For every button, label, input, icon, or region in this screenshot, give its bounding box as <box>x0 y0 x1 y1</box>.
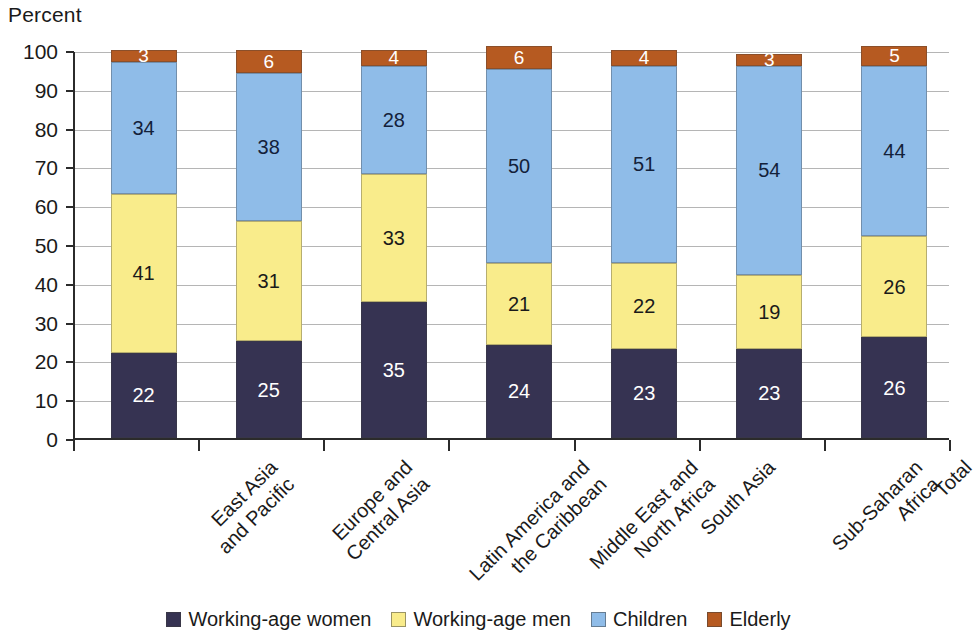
x-axis-category-label: Europe andCentral Asia <box>324 456 434 566</box>
bar-segment-value: 54 <box>758 160 780 180</box>
bar-segment-value: 35 <box>383 360 405 380</box>
legend-label: Working-age men <box>413 608 570 631</box>
bar-segment[interactable]: 24 <box>486 345 552 438</box>
bar-segment[interactable]: 31 <box>236 221 302 341</box>
bar-segment-value: 22 <box>633 296 655 316</box>
legend-item-4[interactable]: Elderly <box>707 608 790 631</box>
bar-segment-value: 21 <box>508 294 530 314</box>
legend-item-3[interactable]: Children <box>591 608 687 631</box>
x-axis-tick-mark <box>949 440 951 451</box>
bar-5[interactable]: 2322514 <box>611 50 677 438</box>
bar-3[interactable]: 3533284 <box>361 50 427 438</box>
bar-segment[interactable]: 6 <box>486 46 552 69</box>
y-axis-title: Percent <box>8 3 82 27</box>
bar-segment[interactable]: 34 <box>111 62 177 194</box>
x-axis-category-label: Sub-SaharanAfrica <box>828 456 945 573</box>
bar-segment[interactable]: 22 <box>111 353 177 438</box>
bar-segment-value: 44 <box>883 141 905 161</box>
legend: Working-age womenWorking-age menChildren… <box>0 608 957 631</box>
x-axis-tick-mark <box>73 440 75 451</box>
legend-label: Children <box>613 608 687 631</box>
legend-swatch <box>166 612 181 627</box>
x-axis-tick-mark <box>448 440 450 451</box>
x-axis-tick-mark <box>699 440 701 451</box>
bar-segment-value: 4 <box>389 48 400 67</box>
bar-segment[interactable]: 54 <box>736 66 802 276</box>
bar-segment-value: 33 <box>383 228 405 248</box>
bar-segment-value: 22 <box>132 385 154 405</box>
legend-swatch <box>391 612 406 627</box>
bar-2[interactable]: 2531386 <box>236 50 302 438</box>
bar-segment-value: 5 <box>889 46 900 65</box>
bar-segment-value: 6 <box>263 52 274 71</box>
x-axis-tick-mark <box>574 440 576 451</box>
bar-segment[interactable]: 51 <box>611 66 677 264</box>
bar-segment-value: 26 <box>883 378 905 398</box>
bar-segment[interactable]: 21 <box>486 263 552 344</box>
plot-area: 2241343253138635332842421506232251423195… <box>73 52 949 440</box>
bar-segment[interactable]: 23 <box>611 349 677 438</box>
bar-segment-value: 51 <box>633 154 655 174</box>
legend-swatch <box>591 612 606 627</box>
bar-segment[interactable]: 4 <box>361 50 427 66</box>
bar-4[interactable]: 2421506 <box>486 46 552 438</box>
bar-segment[interactable]: 33 <box>361 174 427 302</box>
bar-segment[interactable]: 35 <box>361 302 427 438</box>
bar-segment-value: 23 <box>633 383 655 403</box>
bar-segment-value: 25 <box>258 380 280 400</box>
bar-segment-value: 19 <box>758 302 780 322</box>
bar-segment-value: 31 <box>258 271 280 291</box>
legend-swatch <box>707 612 722 627</box>
legend-label: Elderly <box>729 608 790 631</box>
bar-1[interactable]: 2241343 <box>111 50 177 438</box>
x-axis-tick-mark <box>323 440 325 451</box>
bar-segment[interactable]: 23 <box>736 349 802 438</box>
x-axis-category-label: Latin America andthe Caribbean <box>465 456 612 603</box>
bar-segment[interactable]: 19 <box>736 275 802 349</box>
bar-segment-value: 34 <box>132 118 154 138</box>
bar-segment-value: 26 <box>883 277 905 297</box>
bar-segment[interactable]: 26 <box>861 337 927 438</box>
bar-segment-value: 24 <box>508 381 530 401</box>
bar-segment-value: 6 <box>514 48 525 67</box>
bar-segment[interactable]: 3 <box>111 50 177 62</box>
legend-item-2[interactable]: Working-age men <box>391 608 570 631</box>
x-axis-tick-mark <box>198 440 200 451</box>
bar-segment[interactable]: 4 <box>611 50 677 66</box>
y-axis-tick-marks <box>0 52 76 440</box>
bar-segment-value: 4 <box>639 48 650 67</box>
bar-6[interactable]: 2319543 <box>736 54 802 438</box>
legend-label: Working-age women <box>188 608 371 631</box>
bar-segment-value: 23 <box>758 383 780 403</box>
bar-segment-value: 50 <box>508 156 530 176</box>
bar-segment[interactable]: 22 <box>611 263 677 348</box>
bar-segment[interactable]: 25 <box>236 341 302 438</box>
bar-segment-value: 41 <box>132 263 154 283</box>
bar-segment[interactable]: 6 <box>236 50 302 73</box>
x-axis-category-label: East Asiaand Pacific <box>196 456 299 559</box>
bar-7[interactable]: 2626445 <box>861 46 927 438</box>
bar-segment[interactable]: 26 <box>861 236 927 337</box>
bar-segment-value: 38 <box>258 137 280 157</box>
bar-segment[interactable]: 44 <box>861 66 927 237</box>
bar-segment[interactable]: 38 <box>236 73 302 220</box>
bar-segment[interactable]: 50 <box>486 69 552 263</box>
bar-segment[interactable]: 5 <box>861 46 927 65</box>
bar-segment[interactable]: 3 <box>736 54 802 66</box>
bar-segment[interactable]: 28 <box>361 66 427 175</box>
bar-segment-value: 28 <box>383 110 405 130</box>
bar-segment[interactable]: 41 <box>111 194 177 353</box>
legend-item-1[interactable]: Working-age women <box>166 608 371 631</box>
x-axis-tick-mark <box>824 440 826 451</box>
